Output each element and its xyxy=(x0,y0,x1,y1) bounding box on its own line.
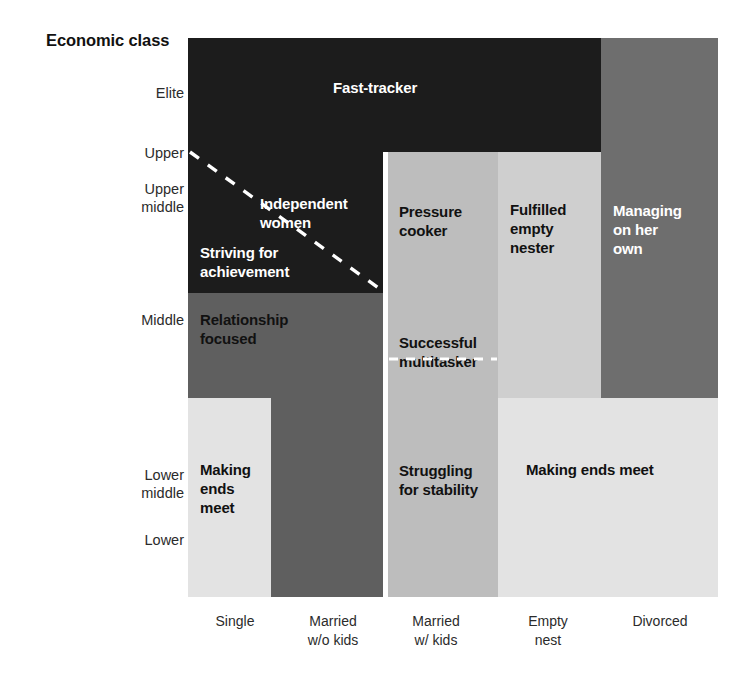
cell-fulfilled-empty-nester[interactable]: Fulfilled empty nester xyxy=(498,152,601,398)
y-tick-elite: Elite xyxy=(34,84,184,102)
cell-label-relationship-focused: Relationship focused xyxy=(200,310,288,348)
cell-married-wo-kids-lower-fill[interactable] xyxy=(271,398,383,597)
cell-making-ends-meet-single[interactable]: Making ends meet xyxy=(188,398,271,597)
cell-label-struggling-for-stability: Struggling for stability xyxy=(399,461,478,499)
cell-striving-for-achievement[interactable]: Striving for achievement xyxy=(188,218,383,293)
cell-struggling-for-stability[interactable]: Struggling for stability xyxy=(388,399,498,597)
y-tick-upper: Upper xyxy=(34,144,184,162)
matrix-plot-area: Fast-tracker Independent women Striving … xyxy=(188,38,718,597)
y-tick-upper-middle: Upper middle xyxy=(34,180,184,216)
y-tick-lower: Lower xyxy=(34,531,184,549)
y-tick-middle: Middle xyxy=(34,311,184,329)
cell-label-striving-for-achievement: Striving for achievement xyxy=(200,243,289,281)
y-tick-lower-middle: Lower middle xyxy=(34,466,184,502)
y-axis-title: Economic class xyxy=(46,31,169,50)
x-tick-empty-nest: Empty nest xyxy=(498,612,598,650)
cell-label-fulfilled-empty-nester: Fulfilled empty nester xyxy=(510,200,566,257)
x-tick-married-wo-kids: Married w/o kids xyxy=(283,612,383,650)
chart-stage: Economic class Elite Upper Upper middle … xyxy=(0,0,754,677)
cell-label-managing-on-her-own: Managing on her own xyxy=(613,201,682,258)
cell-label-successful-multitasker: Successful multitasker xyxy=(399,333,477,371)
cell-label-making-ends-meet-single: Making ends meet xyxy=(200,460,251,517)
x-tick-single: Single xyxy=(185,612,285,631)
cell-label-making-ends-meet-right: Making ends meet xyxy=(526,460,654,479)
cell-fast-tracker[interactable]: Fast-tracker xyxy=(188,38,601,152)
x-tick-married-w-kids: Married w/ kids xyxy=(386,612,486,650)
cell-making-ends-meet-right[interactable]: Making ends meet xyxy=(498,398,718,597)
cell-label-pressure-cooker: Pressure cooker xyxy=(399,202,462,240)
cell-relationship-focused[interactable]: Relationship focused xyxy=(188,293,383,398)
cell-successful-multitasker[interactable]: Successful multitasker xyxy=(388,328,498,399)
x-tick-divorced: Divorced xyxy=(610,612,710,631)
cell-managing-on-her-own[interactable]: Managing on her own xyxy=(601,38,718,398)
cell-label-fast-tracker: Fast-tracker xyxy=(333,78,417,97)
